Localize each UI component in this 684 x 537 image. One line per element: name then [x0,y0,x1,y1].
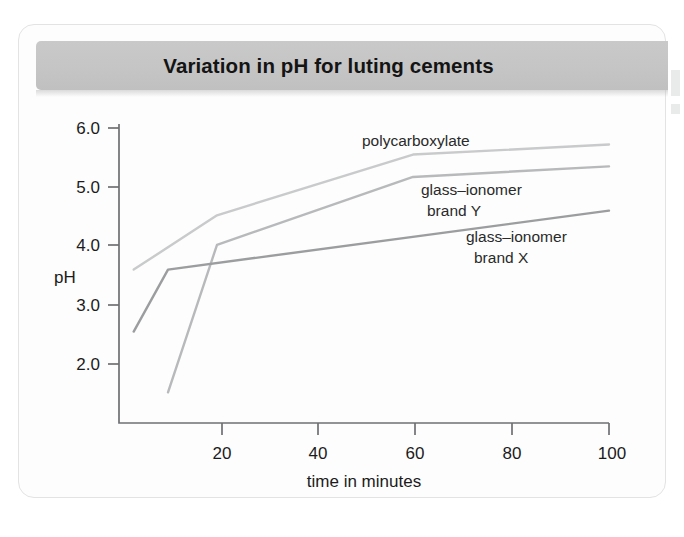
y-tick-label-3: 3.0 [76,296,100,315]
series-label-glass-ionomer-brand-y-line1: glass–ionomer [421,181,522,198]
x-tick-label-100: 100 [598,444,626,463]
x-tick-label-80: 80 [503,444,522,463]
y-axis-title: pH [54,268,76,287]
series-label-glass-ionomer-brand-x-line2: brand X [474,249,529,266]
x-axis-ticks [222,423,609,435]
series-label-glass-ionomer-brand-x-line1: glass–ionomer [466,228,567,245]
y-tick-label-5: 5.0 [76,178,100,197]
y-tick-label-6: 6.0 [76,119,100,138]
figure-root: Variation in pH for luting cements 6.0 5… [0,0,684,537]
x-tick-label-60: 60 [406,444,425,463]
series-line-polycarboxylate [134,145,609,270]
y-tick-label-2: 2.0 [76,355,100,374]
y-tick-label-4: 4.0 [76,236,100,255]
y-axis-ticks [108,128,119,364]
x-axis-title: time in minutes [307,472,421,491]
x-tick-label-20: 20 [213,444,232,463]
chart-area: 6.0 5.0 4.0 3.0 2.0 pH 20 40 60 8 [0,0,684,537]
series-line-glass-ionomer-brand-y [168,166,609,392]
series-label-glass-ionomer-brand-y-line2: brand Y [427,202,481,219]
x-tick-label-40: 40 [309,444,328,463]
x-axis-tick-labels: 20 40 60 80 100 [213,444,627,463]
y-axis-tick-labels: 6.0 5.0 4.0 3.0 2.0 [76,119,100,374]
chart-svg: 6.0 5.0 4.0 3.0 2.0 pH 20 40 60 8 [0,0,684,537]
series-label-polycarboxylate: polycarboxylate [362,132,470,149]
